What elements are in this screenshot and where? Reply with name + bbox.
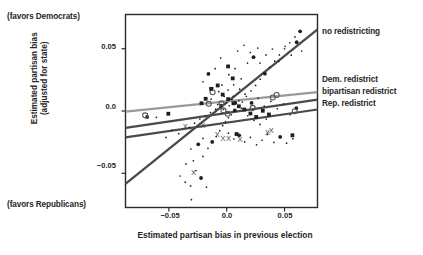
point-0-42 [295,40,299,44]
series-label-rep-redistrict: Rep. redistrict [322,100,376,109]
point-0-94 [256,144,258,146]
point-0-80 [178,133,180,135]
point-0-95 [261,139,263,141]
point-0-83 [156,117,158,119]
point-0-64 [189,127,191,129]
y-axis-title-line1: Estimated partisan bias [30,0,40,158]
point-0-74 [184,181,186,183]
point-0-27 [294,36,296,38]
point-0-38 [272,48,274,50]
x-tick-label-1: 0.0 [207,211,247,220]
point-0-48 [202,81,204,83]
point-2-7 [242,108,246,112]
point-2-2 [216,84,220,88]
point-0-18 [250,90,252,92]
point-0-2 [190,148,192,150]
x-tick-label-2: 0.05 [265,211,305,220]
point-0-98 [278,135,282,139]
point-0-65 [194,122,196,124]
axis-ticks [122,49,285,212]
point-0-67 [204,115,206,117]
point-2-1 [209,87,213,91]
point-0-0 [196,142,200,146]
point-0-22 [269,67,271,69]
favors-republicans-annotation: (favors Republicans) [7,201,86,210]
point-0-26 [289,42,291,44]
point-0-58 [263,105,265,107]
point-3-7: X [265,128,270,137]
point-0-53 [233,95,235,97]
point-0-1 [202,138,204,140]
point-0-82 [165,137,167,139]
point-0-56 [250,101,254,105]
point-0-32 [234,68,236,70]
point-0-79 [191,199,193,201]
y-axis-title: Estimated partisan bias (adjusted for st… [30,0,51,158]
point-2-6 [237,104,241,108]
series-label-bipartisan-redistrict: bipartisan redistrict [322,88,396,97]
point-0-69 [215,108,217,110]
point-0-13 [230,114,232,116]
point-0-16 [241,101,243,103]
point-0-103 [223,109,225,111]
point-0-4 [193,160,195,162]
point-0-45 [243,44,245,46]
point-0-71 [226,102,228,104]
point-0-57 [257,97,259,99]
point-2-11 [267,113,271,117]
point-0-85 [233,84,235,86]
y-tick-label-2: −0.05 [82,161,116,170]
point-0-31 [228,74,230,76]
point-0-10 [222,125,224,127]
point-0-19 [255,85,257,87]
point-2-14 [291,133,295,137]
point-2-12 [204,97,208,101]
point-0-40 [284,45,286,47]
point-0-3 [185,163,187,165]
point-0-73 [179,175,181,177]
point-2-16 [200,101,204,105]
point-2-10 [261,109,265,113]
point-0-110 [265,118,267,120]
point-0-36 [259,62,261,64]
point-0-11 [225,121,227,123]
point-2-17 [226,65,230,69]
point-0-92 [244,141,246,143]
point-0-81 [171,129,173,131]
point-0-37 [265,54,267,56]
point-0-99 [286,142,288,144]
point-0-60 [277,108,279,110]
point-0-20 [259,78,261,80]
point-3-0: X [183,122,188,131]
series-label-dem-redistrict: Dem. redistrict [322,76,378,85]
x-axis-title: Estimated partisan bias in previous elec… [105,230,345,240]
point-0-59 [270,100,272,102]
point-0-54 [238,100,240,102]
point-0-52 [227,89,229,91]
point-2-5 [232,101,236,105]
point-0-102 [217,104,219,106]
point-0-14 [233,108,237,112]
point-0-46 [250,52,252,54]
chart-figure: (favors Democrats) (favors Republicans) … [0,0,423,255]
y-axis-title-line2: (adjusted for state) [40,0,50,158]
point-0-107 [247,115,249,117]
point-0-61 [283,103,285,105]
point-0-21 [263,72,267,76]
point-0-17 [246,95,248,97]
point-0-97 [273,142,275,144]
point-0-77 [199,176,203,180]
point-0-33 [240,78,242,80]
point-3-5: X [191,168,196,177]
y-tick-label-1: 0.0 [82,102,116,111]
point-0-72 [231,99,233,101]
series-label-no-redistricting: no redistricting [322,28,380,37]
point-0-7 [210,140,214,144]
y-tick-label-0: 0.05 [82,42,116,51]
point-2-0 [166,112,170,116]
point-0-5 [202,156,204,158]
point-0-51 [220,57,222,59]
point-0-108 [253,119,255,121]
point-0-50 [214,68,216,70]
point-0-47 [257,47,259,49]
